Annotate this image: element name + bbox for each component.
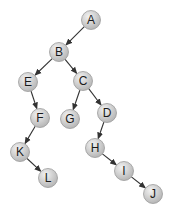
node-e: E bbox=[19, 73, 38, 92]
node-label: K bbox=[16, 145, 24, 159]
edge-c-g bbox=[73, 90, 80, 110]
node-label: D bbox=[103, 106, 112, 120]
node-label: F bbox=[36, 111, 43, 125]
node-label: J bbox=[150, 187, 156, 201]
node-label: B bbox=[55, 45, 63, 59]
node-b: B bbox=[50, 43, 69, 62]
edge-a-b bbox=[66, 27, 84, 45]
node-a: A bbox=[82, 11, 101, 30]
tree-diagram: ABECFGDKHLIJ bbox=[0, 0, 175, 210]
edge-h-i bbox=[102, 154, 116, 165]
node-l: L bbox=[39, 169, 58, 188]
node-k: K bbox=[11, 143, 30, 162]
node-label: L bbox=[45, 171, 52, 185]
edge-i-j bbox=[131, 177, 145, 188]
node-d: D bbox=[98, 104, 117, 123]
node-f: F bbox=[31, 109, 50, 128]
node-label: E bbox=[24, 75, 32, 89]
node-label: G bbox=[65, 112, 74, 126]
node-label: I bbox=[122, 164, 125, 178]
edge-b-c bbox=[65, 59, 77, 73]
node-c: C bbox=[74, 72, 93, 91]
edge-c-d bbox=[89, 89, 101, 105]
edge-k-l bbox=[27, 159, 41, 172]
node-label: C bbox=[79, 74, 88, 88]
edge-f-k bbox=[25, 126, 35, 143]
node-g: G bbox=[61, 110, 80, 129]
edge-e-f bbox=[31, 91, 37, 109]
node-j: J bbox=[144, 185, 163, 204]
node-i: I bbox=[115, 162, 134, 181]
node-label: H bbox=[91, 141, 100, 155]
edge-b-e bbox=[35, 59, 52, 75]
nodes-layer: ABECFGDKHLIJ bbox=[11, 11, 163, 204]
edge-d-h bbox=[98, 122, 104, 139]
node-label: A bbox=[87, 13, 95, 27]
node-h: H bbox=[86, 139, 105, 158]
